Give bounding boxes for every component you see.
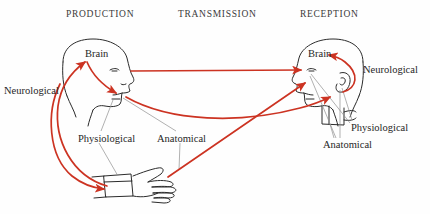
speech-chain-diagram: PRODUCTION TRANSMISSION RECEPTION Brain … bbox=[0, 0, 430, 214]
label-brain-left: Brain bbox=[85, 48, 108, 59]
label-anatomical-right: Anatomical bbox=[323, 139, 372, 150]
arrow-listener-ear-to-brain bbox=[329, 55, 355, 92]
label-physiological-right: Physiological bbox=[351, 122, 408, 133]
label-neurological-right: Neurological bbox=[363, 64, 418, 75]
arrow-speaker-brain-to-mouth bbox=[87, 62, 116, 93]
label-brain-right: Brain bbox=[308, 48, 331, 59]
arrow-acoustic-lower bbox=[126, 97, 330, 118]
label-anatomical-left: Anatomical bbox=[157, 133, 206, 144]
header-production: PRODUCTION bbox=[66, 9, 134, 19]
leader-lines bbox=[99, 74, 352, 176]
arrow-visual-hand-to-eye bbox=[168, 83, 305, 177]
arrow-acoustic-upper bbox=[131, 70, 301, 71]
label-neurological-left: Neurological bbox=[4, 85, 59, 96]
pathway-arrows bbox=[51, 55, 355, 189]
header-reception: RECEPTION bbox=[300, 9, 359, 19]
header-transmission: TRANSMISSION bbox=[178, 9, 257, 19]
label-physiological-left: Physiological bbox=[78, 133, 135, 144]
diagram-canvas bbox=[0, 0, 430, 214]
